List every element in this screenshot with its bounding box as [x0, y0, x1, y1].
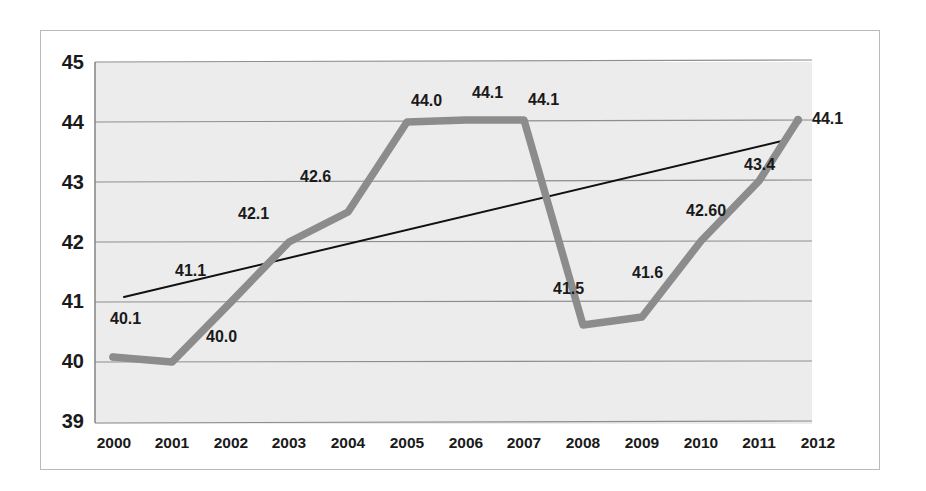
- x-tick-2005: 2005: [377, 435, 437, 451]
- data-point-marker-end: [794, 116, 802, 124]
- x-tick-2000: 2000: [84, 435, 144, 451]
- x-tick-2002: 2002: [201, 435, 261, 451]
- gridline-45: [95, 60, 812, 62]
- x-tick-2004: 2004: [318, 435, 378, 451]
- x-tick-2010: 2010: [671, 435, 731, 451]
- plot-background: [95, 62, 812, 424]
- x-tick-2007: 2007: [494, 435, 554, 451]
- y-tick-42: 42: [38, 232, 84, 252]
- data-label-2012: 44.1: [812, 111, 843, 127]
- trend-line-label: 41.1: [175, 263, 206, 279]
- data-label-2009: 41.6: [632, 265, 663, 281]
- data-label-2004: 42.6: [300, 169, 331, 185]
- x-tick-2011: 2011: [729, 435, 789, 451]
- chart-plot-svg: [0, 0, 926, 491]
- x-tick-2008: 2008: [553, 435, 613, 451]
- data-label-2007: 44.1: [528, 92, 559, 108]
- data-label-2000: 40.1: [110, 311, 141, 327]
- data-label-2008: 41.5: [553, 281, 584, 297]
- y-tick-45: 45: [38, 52, 84, 72]
- x-tick-2009: 2009: [612, 435, 672, 451]
- y-tick-44: 44: [38, 112, 84, 132]
- y-tick-39: 39: [38, 411, 84, 431]
- x-tick-2006: 2006: [436, 435, 496, 451]
- data-point-marker-start: [109, 353, 116, 360]
- y-tick-40: 40: [38, 351, 84, 371]
- data-label-2006: 44.1: [472, 85, 503, 101]
- y-tick-41: 41: [38, 291, 84, 311]
- x-tick-2012: 2012: [788, 435, 848, 451]
- data-label-2011: 43.4: [744, 157, 775, 173]
- x-tick-2001: 2001: [142, 435, 202, 451]
- data-label-2010: 42.60: [686, 203, 726, 219]
- data-label-2005: 44.0: [411, 93, 442, 109]
- x-tick-2003: 2003: [259, 435, 319, 451]
- data-label-2001: 40.0: [206, 329, 237, 345]
- chart-figure: 45 44 43 42 41 40 39 2000 2001 2002 2003…: [0, 0, 926, 491]
- y-tick-43: 43: [38, 172, 84, 192]
- data-label-2003: 42.1: [238, 206, 269, 222]
